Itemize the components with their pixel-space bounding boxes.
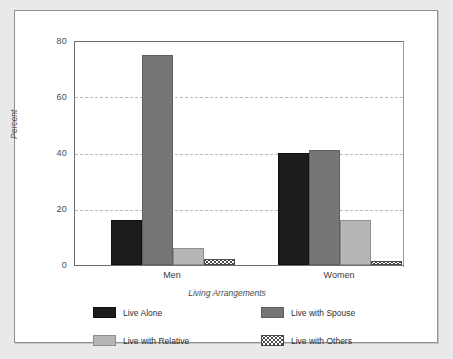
legend-item-live-with-others[interactable]: Live with Others [261, 335, 352, 346]
bar-women-live-with-relative [340, 220, 371, 265]
bar-men-live-with-others [204, 259, 235, 265]
x-tick-label-men: Men [127, 270, 217, 280]
bar-women-live-with-spouse [309, 150, 340, 265]
legend-label-live-with-others: Live with Others [291, 336, 352, 346]
chart-legend: Live Alone Live with Spouse Live with Re… [93, 307, 383, 354]
x-axis-title: Living Arrangements [15, 288, 439, 298]
bar-men-live-alone [111, 220, 142, 265]
gridline-20 [75, 210, 403, 211]
legend-label-live-alone: Live Alone [123, 308, 162, 318]
bar-women-live-with-others [371, 261, 402, 265]
legend-item-live-alone[interactable]: Live Alone [93, 307, 162, 318]
gridline-60 [75, 97, 403, 98]
dark-swatch [93, 307, 116, 318]
plot-right-rule [403, 41, 404, 267]
chart-frame: 80 60 40 20 0 Percent Men Women [14, 10, 438, 343]
plot-area [74, 41, 403, 266]
legend-row-1: Live Alone Live with Spouse [93, 307, 383, 326]
legend-item-live-with-relative[interactable]: Live with Relative [93, 335, 189, 346]
gridline-40 [75, 154, 403, 155]
y-tick-label-20: 20 [33, 204, 67, 214]
legend-label-live-with-relative: Live with Relative [123, 336, 189, 346]
bar-men-live-with-relative [173, 248, 204, 265]
y-axis-title: Percent [9, 110, 19, 139]
y-tick-label-80: 80 [33, 36, 67, 46]
dotted-swatch [261, 335, 284, 346]
chart-figure: 80 60 40 20 0 Percent Men Women [0, 0, 453, 359]
y-tick-label-0: 0 [33, 260, 67, 270]
y-tick-label-40: 40 [33, 148, 67, 158]
bar-women-live-alone [278, 153, 309, 265]
bar-men-live-with-spouse [142, 55, 173, 265]
legend-row-2: Live with Relative Live with Others [93, 335, 383, 354]
x-tick-label-women: Women [294, 270, 384, 280]
medium-gray-swatch [261, 307, 284, 318]
light-gray-swatch [93, 335, 116, 346]
legend-item-live-with-spouse[interactable]: Live with Spouse [261, 307, 355, 318]
y-tick-label-60: 60 [33, 92, 67, 102]
legend-label-live-with-spouse: Live with Spouse [291, 308, 355, 318]
